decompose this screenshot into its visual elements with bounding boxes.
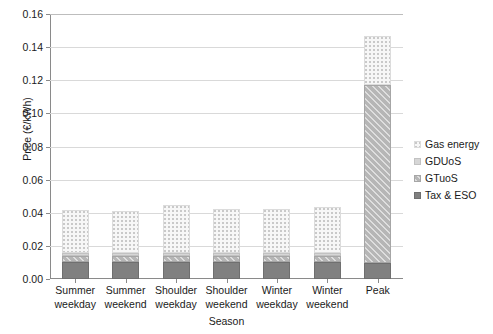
x-axis-tick-label: Peak (353, 284, 403, 298)
bar-group[interactable] (62, 14, 89, 279)
bar-group[interactable] (213, 14, 240, 279)
legend-item[interactable]: Gas energy (414, 136, 493, 153)
bar-segment[interactable] (263, 262, 290, 279)
bar-segment[interactable] (314, 253, 341, 256)
bar-segment[interactable] (263, 253, 290, 256)
legend-label: GDUoS (425, 156, 461, 167)
x-axis-tick-label: Shoulderweekend (201, 284, 251, 311)
x-axis-tick-label: Summerweekend (100, 284, 150, 311)
bar-segment[interactable] (112, 211, 139, 254)
bar-segment[interactable] (213, 256, 240, 262)
x-axis-tick-label: Winterweekday (252, 284, 302, 311)
bar-segment[interactable] (112, 262, 139, 279)
bars-layer (50, 14, 403, 279)
bar-group[interactable] (263, 14, 290, 279)
x-axis-tick-mark (176, 279, 177, 283)
y-axis-tick-label: 0.02 (23, 241, 43, 252)
legend-swatch (414, 141, 421, 148)
bar-segment[interactable] (213, 262, 240, 279)
bar-segment[interactable] (263, 209, 290, 253)
bar-segment[interactable] (112, 253, 139, 256)
bar-segment[interactable] (163, 262, 190, 279)
bar-segment[interactable] (163, 256, 190, 262)
legend-label: Tax & ESO (425, 190, 476, 201)
bar-segment[interactable] (364, 85, 391, 263)
legend-label: GTuoS (425, 173, 458, 184)
x-axis-tick-label: Shoulderweekday (151, 284, 201, 311)
bar-segment[interactable] (314, 256, 341, 262)
bar-group[interactable] (314, 14, 341, 279)
bar-group[interactable] (163, 14, 190, 279)
bar-segment[interactable] (364, 263, 391, 279)
bar-segment[interactable] (213, 253, 240, 256)
bar-segment[interactable] (112, 256, 139, 262)
x-axis-tick-mark (126, 279, 127, 283)
bar-segment[interactable] (163, 205, 190, 253)
bar-segment[interactable] (62, 256, 89, 262)
legend-item[interactable]: GDUoS (414, 153, 493, 170)
legend-item[interactable]: Tax & ESO (414, 187, 493, 204)
x-axis-tick-labels: SummerweekdaySummerweekendShoulderweekda… (50, 284, 403, 318)
x-axis-tick-mark (327, 279, 328, 283)
legend-swatch (414, 175, 421, 182)
x-axis-tick-label: Summerweekday (50, 284, 100, 311)
bar-segment[interactable] (62, 210, 89, 253)
x-axis-tick-mark (277, 279, 278, 283)
x-axis-title: Season (50, 315, 403, 327)
bar-segment[interactable] (314, 262, 341, 279)
chart-legend: Gas energyGDUoSGTuoSTax & ESO (414, 136, 493, 204)
y-axis-tick-label: 0.12 (23, 75, 43, 86)
y-axis-tick-label: 0.00 (23, 274, 43, 285)
legend-swatch (414, 192, 421, 199)
bar-segment[interactable] (163, 253, 190, 256)
y-axis-tick-mark (46, 279, 50, 280)
plot-area: 0.000.020.040.060.080.100.120.140.16 (50, 14, 403, 279)
legend-swatch (414, 158, 421, 165)
legend-item[interactable]: GTuoS (414, 170, 493, 187)
y-axis-tick-label: 0.06 (23, 174, 43, 185)
x-axis-tick-label: Winterweekend (302, 284, 352, 311)
y-axis-tick-label: 0.16 (23, 9, 43, 20)
y-axis-tick-label: 0.10 (23, 108, 43, 119)
x-axis-tick-mark (378, 279, 379, 283)
y-axis-tick-label: 0.14 (23, 42, 43, 53)
bar-segment[interactable] (364, 36, 391, 86)
bar-segment[interactable] (263, 256, 290, 262)
stacked-bar-chart: Price (€/kWh) 0.000.020.040.060.080.100.… (0, 0, 493, 334)
y-axis-tick-label: 0.08 (23, 141, 43, 152)
bar-segment[interactable] (213, 209, 240, 254)
x-axis-tick-mark (227, 279, 228, 283)
bar-group[interactable] (364, 14, 391, 279)
legend-label: Gas energy (425, 139, 479, 150)
bar-segment[interactable] (62, 262, 89, 279)
y-axis-tick-label: 0.04 (23, 208, 43, 219)
x-axis-tick-mark (75, 279, 76, 283)
bar-group[interactable] (112, 14, 139, 279)
bar-segment[interactable] (62, 253, 89, 256)
bar-segment[interactable] (314, 207, 341, 254)
